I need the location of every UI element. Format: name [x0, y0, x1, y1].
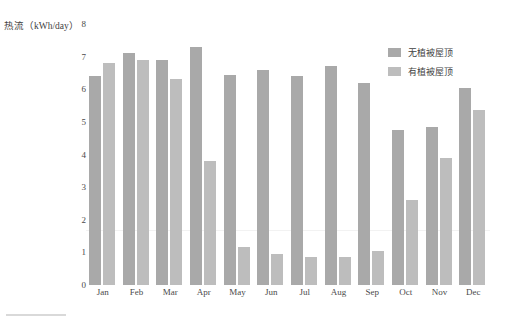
bar-group: [122, 24, 152, 285]
bar-group: [88, 24, 118, 285]
chart-legend: 无植被屋顶有植被屋顶: [388, 45, 453, 83]
y-tick-label: 8: [70, 20, 86, 29]
bar-apr-series1: [190, 47, 202, 285]
legend-label: 无植被屋顶: [408, 46, 453, 59]
legend-item-1[interactable]: 无植被屋顶: [388, 45, 453, 59]
bar-jul-series1: [291, 76, 303, 285]
bar-group: [223, 24, 253, 285]
y-tick-label: 4: [70, 150, 86, 159]
bar-group: [357, 24, 387, 285]
x-tick-label-dec: Dec: [453, 288, 493, 298]
bar-may-series2: [238, 247, 250, 285]
bar-dec-series2: [473, 110, 485, 285]
footer-rule: [6, 314, 66, 316]
legend-label: 有植被屋顶: [408, 65, 453, 78]
y-axis-tick-labels: 012345678: [70, 24, 86, 285]
bar-nov-series2: [440, 158, 452, 285]
bar-group: [290, 24, 320, 285]
bar-dec-series1: [459, 88, 471, 285]
bar-jan-series1: [89, 76, 101, 285]
bar-may-series1: [224, 75, 236, 285]
bar-nov-series1: [426, 127, 438, 285]
bar-group: [155, 24, 185, 285]
bar-sep-series1: [358, 83, 370, 285]
y-tick-label: 5: [70, 117, 86, 126]
bar-aug-series1: [325, 66, 337, 285]
y-axis-title: 热流（kWh/day）: [4, 18, 79, 32]
legend-item-2[interactable]: 有植被屋顶: [388, 64, 453, 78]
y-tick-label: 2: [70, 215, 86, 224]
bar-aug-series2: [339, 257, 351, 285]
x-axis-tick-labels: JanFebMarAprMayJunJulAugSepOctNovDec: [86, 288, 490, 304]
y-tick-label: 7: [70, 52, 86, 61]
legend-swatch-icon: [388, 48, 401, 57]
bar-group: [324, 24, 354, 285]
bar-mar-series1: [156, 60, 168, 285]
legend-swatch-icon: [388, 67, 401, 76]
bar-jun-series2: [271, 254, 283, 285]
bar-chart: 热流（kWh/day） 012345678 JanFebMarAprMayJun…: [0, 0, 512, 326]
bar-oct-series1: [392, 130, 404, 285]
y-tick-label: 6: [70, 85, 86, 94]
y-tick-label: 1: [70, 248, 86, 257]
bar-feb-series1: [123, 53, 135, 285]
bar-apr-series2: [204, 161, 216, 285]
bar-group: [189, 24, 219, 285]
bar-sep-series2: [372, 251, 384, 285]
bar-jul-series2: [305, 257, 317, 285]
bar-feb-series2: [137, 60, 149, 285]
bar-jun-series1: [257, 70, 269, 285]
bar-mar-series2: [170, 79, 182, 285]
bar-jan-series2: [103, 63, 115, 285]
bar-group: [458, 24, 488, 285]
bar-oct-series2: [406, 200, 418, 285]
bar-group: [256, 24, 286, 285]
y-tick-label: 3: [70, 183, 86, 192]
